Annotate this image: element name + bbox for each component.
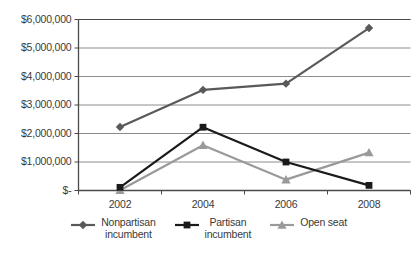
data-series bbox=[115, 24, 373, 194]
y-axis-tick-label: $6,000,000 bbox=[21, 13, 72, 25]
y-axis-tick-label: $3,000,000 bbox=[21, 98, 72, 110]
y-axis-tick-label: $- bbox=[63, 184, 72, 196]
series-nonpartisan-incumbent bbox=[116, 24, 373, 131]
line-chart: $-$1,000,000$2,000,000$3,000,000$4,000,0… bbox=[0, 0, 417, 254]
legend-label: Open seat bbox=[300, 216, 347, 228]
x-axis-tick-label: 2008 bbox=[339, 198, 399, 210]
legend-label: Partisan incumbent bbox=[205, 216, 252, 240]
chart-legend: Nonpartisan incumbentPartisan incumbentO… bbox=[0, 216, 417, 240]
legend-item[interactable]: Nonpartisan incumbent bbox=[70, 216, 155, 240]
data-point-marker bbox=[116, 123, 124, 131]
legend-item[interactable]: Partisan incumbent bbox=[174, 216, 252, 240]
gridlines bbox=[79, 20, 411, 163]
legend-item[interactable]: Open seat bbox=[269, 216, 347, 230]
legend-marker-square-icon bbox=[174, 220, 200, 230]
series-line bbox=[120, 145, 369, 190]
series-line bbox=[120, 127, 369, 187]
data-point-marker bbox=[199, 86, 207, 94]
y-axis-tick-label: $2,000,000 bbox=[21, 127, 72, 139]
series-open-seat bbox=[115, 141, 373, 194]
data-point-marker bbox=[117, 184, 124, 191]
x-axis-tick-label: 2006 bbox=[256, 198, 316, 210]
x-axis-tick-label: 2004 bbox=[173, 198, 233, 210]
series-line bbox=[120, 28, 369, 127]
data-point-marker bbox=[364, 148, 373, 156]
data-point-marker bbox=[366, 182, 373, 189]
legend-marker-diamond-icon bbox=[70, 220, 96, 230]
y-axis-tick-label: $1,000,000 bbox=[21, 155, 72, 167]
data-point-marker bbox=[79, 221, 87, 229]
x-axis-tick-label: 2002 bbox=[90, 198, 150, 210]
data-point-marker bbox=[200, 124, 207, 131]
legend-label: Nonpartisan incumbent bbox=[101, 216, 155, 240]
y-axis-tick-label: $5,000,000 bbox=[21, 41, 72, 53]
data-point-marker bbox=[183, 222, 190, 229]
data-point-marker bbox=[198, 141, 207, 149]
legend-marker-triangle-icon bbox=[269, 220, 295, 230]
y-axis-tick-label: $4,000,000 bbox=[21, 70, 72, 82]
data-point-marker bbox=[283, 159, 290, 166]
